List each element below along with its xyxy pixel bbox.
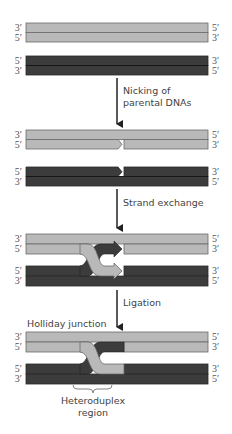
end-label: 3′ xyxy=(15,373,22,384)
holliday-junction-label: Holliday junction xyxy=(27,318,106,329)
dark-duplex xyxy=(26,56,208,75)
end-label: 5′ xyxy=(212,176,219,187)
recombination-diagram: 3′ 5′ 5′ 3′ 5′ 3′ 3′ 5′ Nicking of paren… xyxy=(0,0,232,434)
light-duplex xyxy=(26,23,208,42)
end-label: 3′ xyxy=(15,65,22,76)
curly-brace-icon xyxy=(73,385,112,393)
step-label: Nicking of xyxy=(123,85,171,96)
end-label: 5′ xyxy=(15,341,22,352)
heteroduplex-label: Heteroduplex xyxy=(61,395,125,406)
end-label: 5′ xyxy=(212,275,219,286)
end-label: 3′ xyxy=(15,275,22,286)
light-duplex xyxy=(26,130,208,149)
step-label: Ligation xyxy=(123,297,161,308)
step-arrow-nicking: Nicking of parental DNAs xyxy=(117,78,192,124)
stage-nicked: 3′ 5′ 5′ 3′ 5′ 3′ 3′ 5′ xyxy=(15,129,219,187)
end-label: 3′ xyxy=(212,139,219,150)
dark-duplex xyxy=(26,167,208,186)
stage-parental-dnas: 3′ 5′ 5′ 3′ 5′ 3′ 3′ 5′ xyxy=(15,22,219,76)
end-label: 5′ xyxy=(15,139,22,150)
end-label: 3′ xyxy=(15,176,22,187)
step-arrow-strand-exchange: Strand exchange xyxy=(117,189,204,228)
end-label: 5′ xyxy=(15,243,22,254)
end-label: 3′ xyxy=(212,32,219,43)
heteroduplex-brace: Heteroduplex region xyxy=(61,385,125,418)
end-label: 3′ xyxy=(212,341,219,352)
stage-strand-exchanged: 3′ 5′ 5′ 3′ 5′ 3′ 3′ 5′ xyxy=(15,233,219,286)
step-arrow-ligation: Ligation xyxy=(117,290,161,327)
end-label: 5′ xyxy=(212,65,219,76)
step-label: parental DNAs xyxy=(123,97,192,108)
end-label: 3′ xyxy=(212,243,219,254)
step-label: Strand exchange xyxy=(123,197,204,208)
end-label: 5′ xyxy=(15,32,22,43)
stage-holliday-junction: 3′ 5′ 5′ 3′ 5′ 3′ 3′ 5′ xyxy=(15,331,219,384)
end-label: 5′ xyxy=(212,373,219,384)
heteroduplex-label: region xyxy=(78,407,108,418)
